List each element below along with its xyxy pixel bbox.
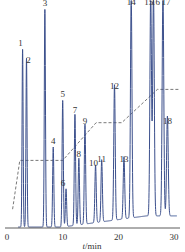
peak-label: 12 bbox=[110, 81, 119, 91]
x-tick-label: 30 bbox=[170, 232, 180, 242]
peak-label: 5 bbox=[60, 89, 65, 99]
peak-label: 13 bbox=[119, 154, 129, 164]
peak-label: 16 bbox=[151, 0, 161, 7]
x-axis-label: t/min bbox=[82, 241, 102, 251]
x-tick-label: 20 bbox=[114, 232, 124, 242]
peak-label: 18 bbox=[163, 116, 173, 126]
peak-label: 7 bbox=[73, 105, 78, 115]
x-tick-label: 10 bbox=[58, 232, 68, 242]
peak-label: 2 bbox=[26, 55, 31, 65]
peak-label: 1 bbox=[18, 38, 23, 48]
chromatogram-trace bbox=[18, 1, 177, 227]
x-tick-label: 0 bbox=[5, 232, 10, 242]
peak-label: 8 bbox=[77, 149, 82, 159]
peak-label: 3 bbox=[43, 0, 48, 8]
peak-label: 11 bbox=[97, 154, 106, 164]
peak-label: 4 bbox=[51, 136, 56, 146]
peak-label: 17 bbox=[161, 0, 171, 7]
peak-label: 14 bbox=[127, 0, 137, 7]
peak-label: 6 bbox=[61, 178, 66, 188]
peak-label: 9 bbox=[83, 116, 88, 126]
chromatogram-chart: 123456789101112131415161718 0102030 t/mi… bbox=[0, 0, 185, 252]
